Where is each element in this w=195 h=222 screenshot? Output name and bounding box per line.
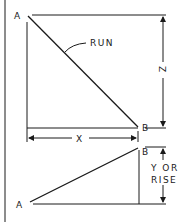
bottom-figure: A B Y OR RISE — [16, 147, 179, 210]
run-leader-line — [65, 43, 86, 52]
diagram-canvas: A B RUN Z X A B Y OR RISE — [0, 0, 195, 222]
slope-line — [30, 148, 138, 202]
top-point-a-label: A — [14, 11, 22, 21]
run-diagonal-line — [28, 16, 138, 127]
rise-label: RISE — [151, 175, 177, 185]
bottom-point-a-label: A — [16, 200, 24, 210]
z-label: Z — [157, 66, 167, 74]
run-rise-diagram: A B RUN Z X A B Y OR RISE — [0, 0, 195, 222]
y-or-label: Y OR — [150, 163, 179, 173]
top-figure: A B RUN Z X — [14, 11, 167, 144]
top-point-b-label: B — [142, 123, 150, 133]
x-label: X — [76, 134, 84, 144]
run-label: RUN — [90, 38, 114, 48]
bottom-point-b-label: B — [142, 147, 150, 157]
